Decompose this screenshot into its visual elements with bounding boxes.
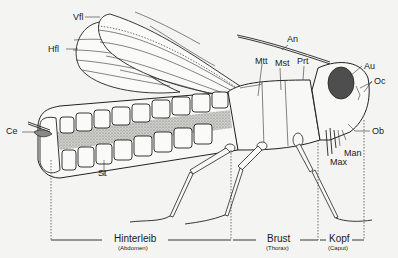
label-prt: Prt	[297, 56, 309, 66]
label-an: An	[287, 34, 298, 44]
label-vfl: Vfl	[73, 12, 84, 22]
section-thorax-latin: (Thorax)	[266, 245, 289, 251]
insect-anatomy-diagram: Vfl Hfl An Mtt Mst Prt Au Oc Ob Man Max …	[0, 0, 398, 258]
section-thorax-name: Brust	[267, 233, 291, 244]
label-st: St	[98, 168, 107, 178]
compound-eye	[328, 67, 354, 99]
label-oc: Oc	[374, 76, 386, 86]
head	[312, 63, 369, 156]
label-mtt: Mtt	[255, 56, 268, 66]
label-ce: Ce	[6, 126, 18, 136]
section-head-name: Kopf	[329, 233, 350, 244]
section-abdomen-name: Hinterleib	[114, 233, 157, 244]
label-au: Au	[364, 61, 375, 71]
thorax	[228, 80, 320, 150]
label-max: Max	[330, 157, 348, 167]
section-head-latin: (Caput)	[328, 245, 348, 251]
label-ob: Ob	[372, 126, 384, 136]
label-hfl: Hfl	[48, 44, 59, 54]
label-mst: Mst	[275, 58, 290, 68]
front-leg	[293, 133, 372, 221]
section-abdomen-latin: (Abdomen)	[118, 245, 148, 251]
